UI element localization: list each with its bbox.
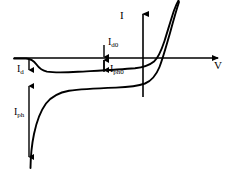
annotation-i-ph-label: Iph <box>14 107 24 117</box>
annotation-i-ph0-label: Iph0 <box>110 64 124 74</box>
i-d0-sub2: 0 <box>115 41 119 49</box>
dark-diode-curve <box>14 1 179 73</box>
illuminated-diode-curve <box>31 2 180 168</box>
i-d-sub: d <box>20 68 24 76</box>
iv-characteristic-figure: I V Id0 Iph0 Id Iph <box>0 0 238 170</box>
annotation-i-d0-label: Id0 <box>108 37 118 47</box>
figure-canvas <box>0 0 238 170</box>
current-axis-label: I <box>120 10 124 21</box>
i-ph0-sub2: 0 <box>120 68 124 76</box>
i-ph-sub: ph <box>17 111 24 119</box>
voltage-axis-label: V <box>214 60 222 71</box>
annotation-i-d-label: Id <box>17 64 24 74</box>
